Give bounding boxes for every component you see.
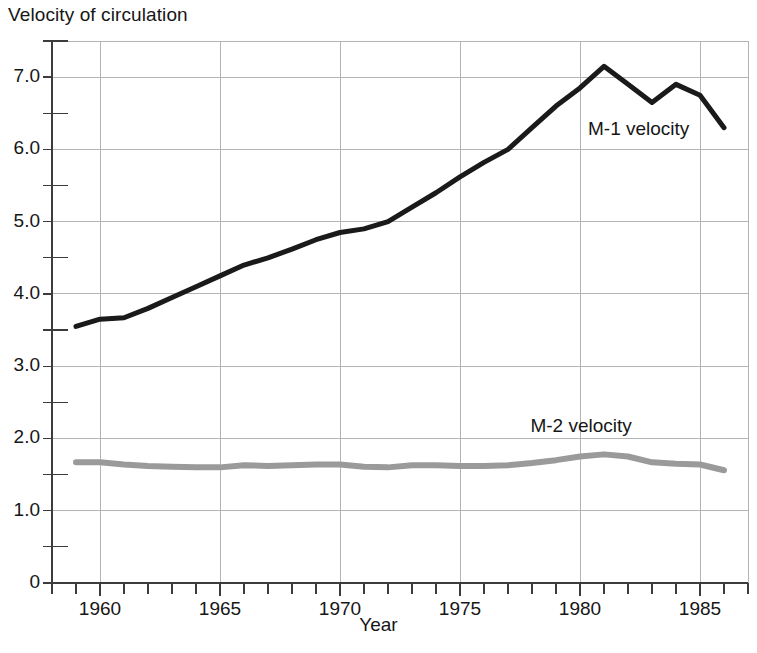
y-tick-label: 5.0 [0, 210, 40, 232]
y-tick-label: 6.0 [0, 137, 40, 159]
y-tick-label: 7.0 [0, 65, 40, 87]
chart-figure: Velocity of circulation 01.02.03.04.05.0… [0, 0, 757, 653]
plot-area [0, 0, 757, 653]
series-line-m2 [76, 454, 724, 470]
series-line-m1 [76, 66, 724, 326]
series-annotation-m2: M-2 velocity [530, 415, 631, 437]
y-tick-label: 3.0 [0, 354, 40, 376]
y-tick-label: 4.0 [0, 282, 40, 304]
y-tick-label: 0 [0, 571, 40, 593]
y-tick-label: 1.0 [0, 499, 40, 521]
series-annotation-m1: M-1 velocity [588, 118, 689, 140]
x-axis-title: Year [0, 614, 757, 636]
y-tick-label: 2.0 [0, 426, 40, 448]
